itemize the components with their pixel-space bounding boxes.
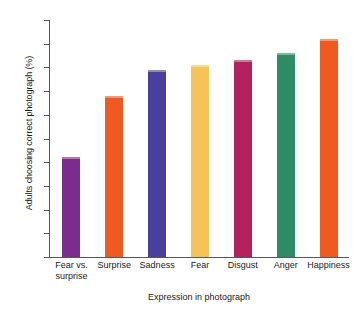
bar (320, 39, 338, 257)
bar (62, 157, 80, 257)
bar-top-highlight (62, 157, 80, 159)
x-axis-tick-label-line2: surprise (47, 271, 96, 282)
x-axis-tick-label: Disgust (218, 260, 267, 271)
x-axis-tick-label: Fear (176, 260, 225, 271)
plot-area (49, 20, 349, 257)
bar-top-highlight (234, 60, 252, 62)
x-axis-tick-label-line1: Fear (191, 260, 210, 270)
y-axis-title: Adults choosing correct photograph (%) (24, 8, 34, 258)
x-axis-tick-label-line1: Anger (274, 260, 298, 270)
bar (105, 96, 123, 257)
y-axis-tick (44, 186, 49, 187)
y-axis-tick (44, 44, 49, 45)
bar-top-highlight (105, 96, 123, 98)
y-axis-tick (44, 115, 49, 116)
bar (234, 60, 252, 257)
y-axis-tick (44, 91, 49, 92)
x-axis-tick-label-line1: Fear vs. (55, 260, 88, 270)
bar-top-highlight (191, 65, 209, 67)
x-axis-line (49, 257, 349, 258)
x-axis-tick-label: Sadness (133, 260, 182, 271)
bar (148, 70, 166, 257)
bar-top-highlight (148, 70, 166, 72)
x-axis-tick-label-line1: Surprise (98, 260, 132, 270)
bar (277, 53, 295, 257)
y-axis-tick (44, 233, 49, 234)
y-axis-tick (44, 67, 49, 68)
x-axis-tick-label-line1: Happiness (307, 260, 350, 270)
x-axis-title: Expression in photograph (49, 292, 349, 302)
y-axis-tick (44, 162, 49, 163)
x-axis-tick-label: Anger (261, 260, 310, 271)
bars-layer (50, 20, 349, 257)
x-axis-tick-label: Happiness (304, 260, 353, 271)
bar-chart: Adults choosing correct photograph (%) 0… (0, 0, 362, 312)
y-axis-tick (44, 257, 49, 258)
bar-top-highlight (277, 53, 295, 55)
y-axis-tick (44, 210, 49, 211)
bar (191, 65, 209, 257)
x-axis-tick-label-line1: Sadness (140, 260, 175, 270)
x-axis-tick-label: Fear vs.surprise (47, 260, 96, 282)
y-axis-tick (44, 139, 49, 140)
x-axis-tick-label-line1: Disgust (228, 260, 258, 270)
bar-top-highlight (320, 39, 338, 41)
y-axis-tick (44, 20, 49, 21)
x-axis-tick-label: Surprise (90, 260, 139, 271)
